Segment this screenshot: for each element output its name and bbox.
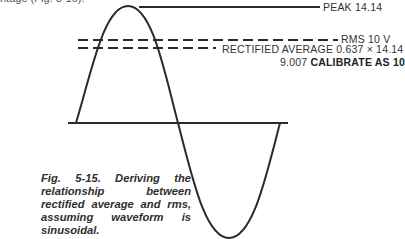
figure-caption: Fig. 5-15. Deriving the relationship bet… (41, 172, 191, 237)
peak-label: PEAK 14.14 (323, 1, 382, 13)
figure-number: Fig. 5-15. (41, 172, 101, 184)
result-value: 9.007 (280, 56, 307, 68)
calibrate-label: CALIBRATE AS 10 (310, 56, 405, 68)
rectified-average-label: RECTIFIED AVERAGE 0.637 × 14.14 (222, 43, 403, 55)
calibrate-line: 9.007 CALIBRATE AS 10 (280, 56, 405, 68)
